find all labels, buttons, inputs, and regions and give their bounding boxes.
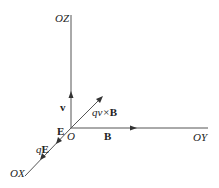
oy-label: OY [193, 132, 207, 143]
v-label: v [60, 102, 66, 113]
axes-svg [0, 0, 219, 188]
oz-label: OZ [55, 13, 69, 24]
qvxb-label: qv×B [92, 107, 117, 118]
v-arrow-icon [69, 91, 74, 98]
qvxb-qv: qv [92, 106, 102, 118]
e-label: E [57, 126, 64, 137]
b-arrow-icon [130, 126, 137, 131]
origin-label: O [67, 131, 75, 142]
qvxb-b: B [110, 106, 117, 118]
qvxb-cross: × [102, 106, 109, 118]
b-label: B [104, 131, 111, 142]
force-vector-diagram: OZ OY OX O v B E qE qv×B [0, 0, 219, 188]
ox-label: OX [10, 168, 25, 179]
qe-vector: E [42, 143, 49, 155]
qe-label: qE [36, 144, 49, 155]
